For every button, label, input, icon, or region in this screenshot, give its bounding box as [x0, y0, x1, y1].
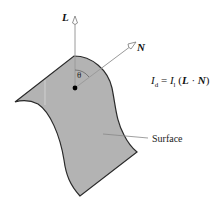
lighting-diagram: L N θ Surface — [0, 0, 223, 206]
light-vector-arrowhead-icon — [73, 16, 78, 25]
normal-vector-label: N — [136, 41, 146, 53]
surface-label: Surface — [152, 133, 183, 144]
formula-vector-n: N — [198, 74, 206, 86]
surface-point — [73, 86, 78, 91]
surface-patch — [15, 56, 137, 196]
formula-equals: = — [158, 74, 170, 86]
formula-close-paren: ) — [206, 74, 210, 86]
formula-dot: · — [189, 74, 198, 86]
angle-label: θ — [77, 70, 81, 80]
light-vector-label: L — [61, 11, 69, 23]
diffuse-lighting-formula: Id = Il (L · N) — [151, 74, 209, 89]
normal-vector-arrowhead-icon — [128, 42, 136, 49]
formula-vector-l: L — [182, 74, 189, 86]
